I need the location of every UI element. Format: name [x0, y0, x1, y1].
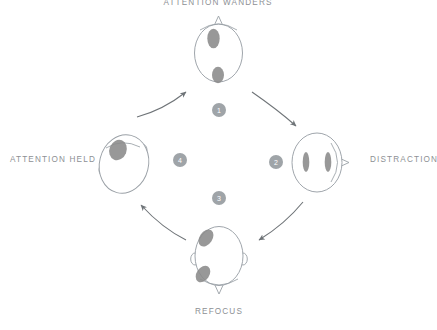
step-badge-label: 2 [274, 159, 278, 166]
stage-label-distraction: DISTRACTION [370, 155, 437, 164]
activation-blob [303, 152, 310, 172]
arrow-refocus-to-held [141, 205, 186, 240]
arrow-wanders-to-distraction [252, 92, 296, 126]
step-badge-label: 4 [178, 157, 182, 164]
arrow-distraction-to-refocus [259, 202, 303, 240]
step-badge-label: 1 [217, 107, 221, 114]
stage-label-attention-held: ATTENTION HELD [10, 155, 96, 164]
stage-label-attention-wanders: ATTENTION WANDERS [163, 0, 272, 7]
diagram-canvas: 1 2 3 4 ATTENTION WANDERS DISTRACTION RE… [0, 0, 437, 330]
head-attention-held [93, 129, 155, 198]
stage-label-refocus: REFOCUS [195, 307, 243, 316]
step-badge-4[interactable]: 4 [173, 153, 187, 167]
step-badge-2[interactable]: 2 [269, 155, 283, 169]
skull-outline-right [292, 133, 342, 192]
activation-blob [207, 29, 219, 49]
arrow-held-to-wanders [137, 92, 186, 117]
activation-blob [325, 152, 332, 172]
step-badge-3[interactable]: 3 [212, 191, 226, 205]
skull-outline-left [93, 129, 155, 198]
head-distraction [292, 133, 349, 192]
step-badge-1[interactable]: 1 [212, 103, 226, 117]
attention-cycle-diagram: 1 2 3 4 [0, 0, 437, 330]
step-badge-label: 3 [217, 195, 221, 202]
head-refocus [191, 227, 248, 295]
activation-blob [212, 67, 224, 83]
head-attention-wanders [195, 16, 243, 83]
